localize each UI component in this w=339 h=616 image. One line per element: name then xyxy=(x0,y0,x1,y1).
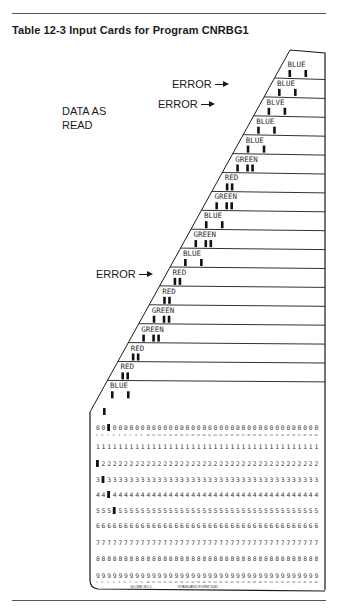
card-digit: 1 xyxy=(135,443,139,450)
card-digit: 9 xyxy=(130,572,134,579)
card-digit: 1 xyxy=(191,443,195,450)
card-digit: 2 xyxy=(281,460,285,467)
column-number: 1 xyxy=(96,581,98,584)
card-digit: 3 xyxy=(298,476,302,483)
column-number: 20 xyxy=(202,581,206,584)
card-digit: 4 xyxy=(158,491,162,498)
card-digit: 0 xyxy=(191,424,195,431)
card-digit: 1 xyxy=(214,443,218,450)
card-digit: 4 xyxy=(135,491,139,498)
card-digit: 3 xyxy=(130,476,134,483)
card-label: BLUE xyxy=(287,60,306,69)
bottom-rule xyxy=(12,600,326,601)
card-digit: 8 xyxy=(146,555,150,562)
card-deck-illustration: BLUEBLUEBLVEBLUEBLUEGREENREDGREENBLUEGRE… xyxy=(0,0,339,616)
card-digit: 2 xyxy=(219,460,223,467)
card-digit: 5 xyxy=(253,507,257,514)
card-digit: 0 xyxy=(309,424,313,431)
card-digit: 9 xyxy=(292,572,296,579)
column-number: 24 xyxy=(225,581,229,584)
card-digit: 3 xyxy=(208,476,212,483)
card-digit: 4 xyxy=(219,491,223,498)
punch-hole xyxy=(163,297,166,304)
card-digit: 3 xyxy=(253,476,257,483)
card-digit: 5 xyxy=(158,507,162,514)
card-digit: 6 xyxy=(264,522,268,529)
column-number: 32 xyxy=(270,434,274,437)
card-digit: 7 xyxy=(292,539,296,546)
card-digit: 6 xyxy=(208,522,212,529)
card-digit: 1 xyxy=(298,443,302,450)
card-digit: 3 xyxy=(264,476,268,483)
card-digit: 8 xyxy=(286,555,290,562)
card-digit: 2 xyxy=(292,460,296,467)
card-digit: 7 xyxy=(208,539,212,546)
card-digit: 8 xyxy=(113,555,117,562)
card-digit: 0 xyxy=(303,424,307,431)
card-digit: 4 xyxy=(258,491,262,498)
card-digit: 1 xyxy=(281,443,285,450)
card-digit: 8 xyxy=(298,555,302,562)
punch-hole xyxy=(179,278,182,285)
card-digit: 4 xyxy=(141,491,145,498)
front-card-edge xyxy=(90,412,325,591)
card-digit: 7 xyxy=(309,539,313,546)
card-digit: 4 xyxy=(152,491,156,498)
punch-hole xyxy=(288,70,291,77)
card-digit: 6 xyxy=(191,522,195,529)
card-digit: 7 xyxy=(130,539,134,546)
card-digit: 4 xyxy=(191,491,195,498)
card-digit: 6 xyxy=(281,522,285,529)
card-digit: 6 xyxy=(163,522,167,529)
card-maker-label: GLOBE NO.1 xyxy=(130,585,152,589)
card-digit: 2 xyxy=(309,460,313,467)
card-digit: 6 xyxy=(219,522,223,529)
column-number: 30 xyxy=(258,434,262,437)
card-digit: 3 xyxy=(118,476,122,483)
card-digit: 3 xyxy=(214,476,218,483)
punch-hole xyxy=(204,240,207,247)
punch-hole xyxy=(168,297,171,304)
card-label: BLUE xyxy=(204,211,223,220)
card-digit: 5 xyxy=(186,507,190,514)
card-digit: 5 xyxy=(146,507,150,514)
card-digit: 5 xyxy=(247,507,251,514)
card-digit: 0 xyxy=(169,424,173,431)
card-digit: 3 xyxy=(180,476,184,483)
card-digit: 3 xyxy=(270,476,274,483)
card-digit: 0 xyxy=(197,424,201,431)
column-number: 3 xyxy=(107,581,109,584)
card-digit: 2 xyxy=(163,460,167,467)
card-digit: 3 xyxy=(225,476,229,483)
card-digit: 5 xyxy=(163,507,167,514)
card-digit: 6 xyxy=(202,522,206,529)
card-digit: 1 xyxy=(118,443,122,450)
punch-hole xyxy=(102,476,105,483)
card-digit: 2 xyxy=(107,460,111,467)
card-digit: 7 xyxy=(186,539,190,546)
card-digit: 1 xyxy=(219,443,223,450)
card-digit: 0 xyxy=(202,424,206,431)
card-digit: 9 xyxy=(202,572,206,579)
column-number: 25 xyxy=(230,581,234,584)
card-digit: 6 xyxy=(230,522,234,529)
card-digit: 7 xyxy=(258,539,262,546)
punch-hole xyxy=(103,408,106,415)
card-digit: 6 xyxy=(152,522,156,529)
card-label: BLUE xyxy=(183,249,202,258)
column-number: 2 xyxy=(102,434,104,437)
card-digit: 1 xyxy=(253,443,257,450)
card-digit: 9 xyxy=(253,572,257,579)
card-digit: 4 xyxy=(242,491,246,498)
card-label: RED xyxy=(131,344,145,353)
card-digit: 4 xyxy=(146,491,150,498)
column-number: 22 xyxy=(214,581,218,584)
card-digit: 3 xyxy=(146,476,150,483)
card-digit: 3 xyxy=(286,476,290,483)
column-number: 31 xyxy=(264,581,268,584)
column-number: 21 xyxy=(208,581,212,584)
card-digit: 9 xyxy=(247,572,251,579)
card-digit: 2 xyxy=(264,460,268,467)
card-digit: 7 xyxy=(236,539,240,546)
column-number: 29 xyxy=(253,434,257,437)
